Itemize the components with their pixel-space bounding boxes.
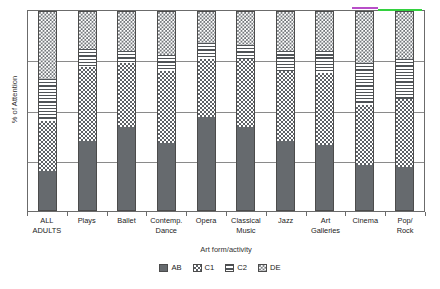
legend-swatch-c1-icon xyxy=(193,264,202,272)
bar-segment-c1 xyxy=(395,99,414,167)
x-tick-label-line: Classical xyxy=(226,216,266,226)
bar-segment-de xyxy=(395,11,414,59)
bar-segment-ab xyxy=(315,145,334,211)
green-streak xyxy=(378,9,422,11)
legend-label: DE xyxy=(270,263,281,272)
bar-ballet xyxy=(117,11,136,211)
legend-label: C2 xyxy=(237,263,247,272)
bar-segment-c2 xyxy=(276,51,295,71)
bar-segment-c1 xyxy=(197,59,216,117)
bar-segment-de xyxy=(38,11,57,79)
bar-segment-c2 xyxy=(236,45,255,59)
bar-segment-ab xyxy=(38,171,57,211)
legend-swatch-c2-icon xyxy=(225,264,234,272)
bar-opera xyxy=(197,11,216,211)
bar-segment-c1 xyxy=(38,121,57,171)
x-tick-label-line: Contemp. xyxy=(146,216,186,226)
magenta-streak xyxy=(352,7,378,9)
legend-swatch-ab-icon xyxy=(159,264,168,272)
bar-segment-de xyxy=(236,11,255,45)
bar-pop-rock xyxy=(395,11,414,211)
bar-segment-c2 xyxy=(395,59,414,99)
bar-plays xyxy=(78,11,97,211)
x-tick-label-line: Opera xyxy=(186,216,226,226)
legend-label: AB xyxy=(171,263,181,272)
bar-segment-de xyxy=(197,11,216,43)
x-tick-label-line: Dance xyxy=(146,226,186,236)
legend-swatch-de-icon xyxy=(258,264,267,272)
bar-segment-de xyxy=(157,11,176,55)
x-tick-label-line: ALL xyxy=(27,216,67,226)
bar-all-adults xyxy=(38,11,57,211)
bar-segment-c1 xyxy=(236,59,255,127)
bar-segment-de xyxy=(117,11,136,51)
bar-classical-music xyxy=(236,11,255,211)
bar-segment-c1 xyxy=(355,105,374,165)
x-tick-label-line: Music xyxy=(226,226,266,236)
bar-segment-c2 xyxy=(38,79,57,121)
bar-group xyxy=(28,11,424,211)
plot-area xyxy=(27,10,425,212)
bar-segment-c1 xyxy=(315,73,334,145)
bar-segment-de xyxy=(315,11,334,51)
x-tick-label-line: Art xyxy=(306,216,346,226)
bar-segment-c1 xyxy=(78,67,97,141)
bar-segment-ab xyxy=(157,143,176,211)
x-tick-label-line: Pop/ xyxy=(385,216,425,226)
bar-segment-c2 xyxy=(355,63,374,105)
legend-label: C1 xyxy=(205,263,215,272)
legend-item-ab[interactable]: AB xyxy=(159,263,181,272)
bar-segment-c2 xyxy=(78,49,97,67)
bar-segment-ab xyxy=(78,141,97,211)
chart-figure: % of Attention ALLADULTSPlaysBalletConte… xyxy=(0,0,440,289)
bar-segment-c2 xyxy=(315,51,334,73)
bar-segment-ab xyxy=(236,127,255,211)
bar-segment-ab xyxy=(395,167,414,211)
legend-item-de[interactable]: DE xyxy=(258,263,281,272)
x-tick-label-line: Rock xyxy=(385,226,425,236)
bar-jazz xyxy=(276,11,295,211)
chart-legend: ABC1C2DE xyxy=(0,263,440,272)
x-tick xyxy=(425,212,426,216)
x-tick-label-line: Jazz xyxy=(266,216,306,226)
bar-segment-c1 xyxy=(276,71,295,141)
legend-item-c2[interactable]: C2 xyxy=(225,263,247,272)
bar-segment-de xyxy=(276,11,295,51)
x-tick-label-line: Ballet xyxy=(107,216,147,226)
bar-art-galleries xyxy=(315,11,334,211)
bar-segment-ab xyxy=(276,141,295,211)
bar-segment-c1 xyxy=(157,71,176,143)
bar-segment-c2 xyxy=(157,55,176,71)
x-tick-label-line: Plays xyxy=(67,216,107,226)
bar-segment-ab xyxy=(197,117,216,211)
bar-segment-c2 xyxy=(197,43,216,59)
x-tick-label-line: ADULTS xyxy=(27,226,67,236)
bar-segment-de xyxy=(78,11,97,49)
x-axis-title: Art form/activity xyxy=(27,245,425,254)
bar-segment-ab xyxy=(355,165,374,211)
legend-item-c1[interactable]: C1 xyxy=(193,263,215,272)
y-axis-title: % of Attention xyxy=(10,50,19,150)
x-tick-label-line: Galleries xyxy=(306,226,346,236)
bar-segment-c2 xyxy=(117,51,136,63)
bar-segment-c1 xyxy=(117,63,136,127)
bar-contemp-dance xyxy=(157,11,176,211)
bar-cinema xyxy=(355,11,374,211)
bar-segment-de xyxy=(355,11,374,63)
bar-segment-ab xyxy=(117,127,136,211)
x-tick-label-line: Cinema xyxy=(345,216,385,226)
